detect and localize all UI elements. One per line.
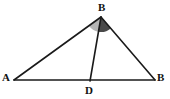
vertex-label-a: A <box>2 72 10 83</box>
geometry-figure: B A B D <box>0 0 170 99</box>
triangle-side-a-to-apex <box>14 17 101 80</box>
triangle-edges-group <box>14 17 155 81</box>
vertex-label-right-b: B <box>157 72 164 83</box>
vertex-label-apex-b: B <box>98 2 105 13</box>
triangle-side-apex-to-b <box>101 17 155 80</box>
vertex-label-d: D <box>85 85 93 96</box>
